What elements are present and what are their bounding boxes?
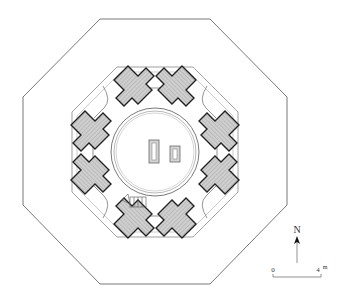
scale-start-label: 0 (271, 266, 275, 274)
floor-plan: N 0 4 m (0, 0, 346, 299)
north-label: N (293, 224, 300, 235)
scale-end-label: 4 (316, 266, 320, 274)
scale-bar: 0 4 m (271, 264, 327, 277)
scale-unit-label: m (323, 264, 328, 270)
north-arrow: N (293, 224, 300, 263)
